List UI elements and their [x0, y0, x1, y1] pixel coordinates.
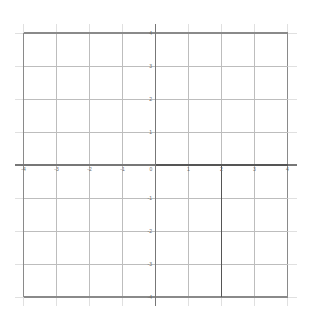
- x-tick-label: -2: [87, 166, 92, 172]
- x-tick-label: 3: [253, 166, 256, 172]
- y-tick-label: 3: [149, 63, 152, 69]
- y-tick-label: -1: [148, 195, 153, 201]
- canvas-background: [0, 0, 321, 321]
- x-tick-label: 4: [286, 166, 289, 172]
- y-tick-label: 4: [149, 30, 152, 36]
- x-tick-label: 1: [187, 166, 190, 172]
- coordinate-grid-figure: -4-3-2-101234 4321-1-2-3-4: [0, 0, 321, 321]
- x-tick-label: 2: [220, 166, 223, 172]
- x-tick-label: -1: [120, 166, 125, 172]
- y-tick-label: 1: [149, 129, 152, 135]
- y-tick-label: -3: [148, 261, 153, 267]
- y-tick-label: -2: [148, 228, 153, 234]
- x-tick-label: -4: [21, 166, 26, 172]
- coordinate-plane-svg: -4-3-2-101234 4321-1-2-3-4: [0, 0, 321, 321]
- y-tick-label: 2: [149, 96, 152, 102]
- x-tick-label: 0: [150, 166, 153, 172]
- y-tick-label: -4: [148, 294, 153, 300]
- x-tick-label: -3: [54, 166, 59, 172]
